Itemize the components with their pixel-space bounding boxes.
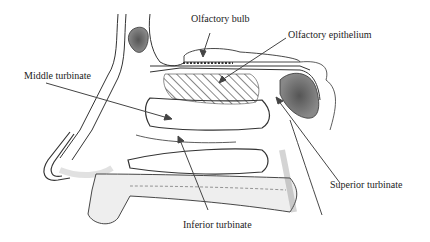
label-middle-turbinate: Middle turbinate [24, 70, 91, 82]
inferior-turbinate-shape [128, 149, 268, 174]
label-olfactory-epithelium: Olfactory epithelium [288, 29, 372, 41]
frontal-sinus [128, 27, 148, 52]
label-olfactory-bulb: Olfactory bulb [191, 13, 250, 25]
sphenoid-sinus [280, 73, 319, 118]
label-superior-turbinate: Superior turbinate [330, 179, 402, 191]
hard-palate [88, 174, 297, 224]
label-inferior-turbinate: Inferior turbinate [183, 219, 252, 231]
